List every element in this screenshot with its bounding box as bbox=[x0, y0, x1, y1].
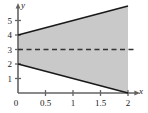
x-tick-label-0.5: 0.5 bbox=[40, 99, 51, 108]
x-tick-label-1: 1 bbox=[71, 99, 76, 108]
y-axis-label: y bbox=[21, 1, 25, 10]
y-tick-label-4: 4 bbox=[2, 31, 12, 40]
x-tick-label-2: 2 bbox=[126, 99, 131, 108]
x-tick-label-0: 0 bbox=[14, 99, 19, 108]
y-tick-label-2: 2 bbox=[2, 60, 12, 69]
y-axis-arrow-icon bbox=[16, 3, 21, 9]
x-axis-label: x bbox=[139, 87, 143, 96]
x-tick-label-1.5: 1.5 bbox=[95, 99, 106, 108]
plot-canvas bbox=[0, 0, 148, 113]
y-tick-label-5: 5 bbox=[2, 16, 12, 25]
y-tick-label-3: 3 bbox=[2, 45, 12, 54]
figure-container: 1 2 3 4 5 0 0.5 1 1.5 2 y x bbox=[0, 0, 148, 113]
y-tick-label-1: 1 bbox=[2, 74, 12, 83]
